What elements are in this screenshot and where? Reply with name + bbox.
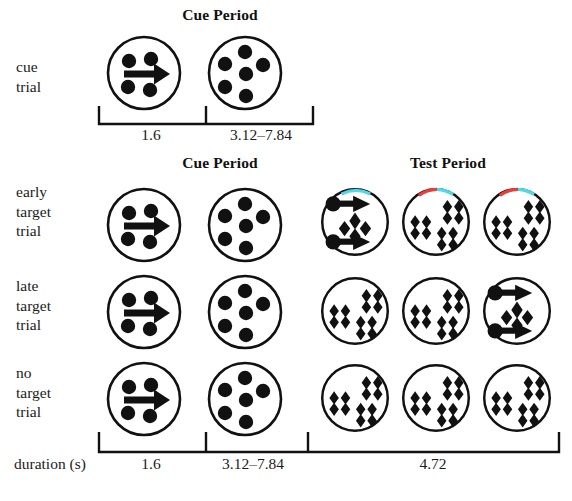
top-duration-segment-2: 3.12–7.84	[206, 126, 316, 144]
stimulus-no-target-cue	[104, 359, 184, 439]
stimulus-late-target-test-2	[398, 272, 474, 348]
header-test-period: Test Period	[368, 154, 528, 172]
row-label-early-target-trial: early target trial	[16, 182, 51, 241]
stimulus-early-target-test-2	[398, 183, 474, 259]
stimulus-late-target-test-3	[479, 272, 555, 348]
row-label-line: trial	[16, 77, 41, 97]
row-label-line: trial	[16, 402, 51, 422]
stimulus-no-target-test-2	[398, 359, 474, 435]
stimulus-late-target-cue	[104, 272, 184, 352]
stimulus-no-target-delay	[205, 359, 285, 439]
stimulus-cue-trial-cue	[104, 33, 184, 113]
stimulus-no-target-test-1	[317, 359, 393, 435]
bottom-duration-segment-2: 3.12–7.84	[198, 455, 308, 473]
row-label-line: early	[16, 182, 51, 202]
stimulus-no-target-test-3	[479, 359, 555, 435]
top-duration-segment-1: 1.6	[96, 126, 206, 144]
row-label-line: no	[16, 363, 51, 383]
row-label-line: target	[16, 202, 51, 222]
row-label-line: trial	[16, 221, 51, 241]
stimulus-late-target-test-1	[317, 272, 393, 348]
bottom-timeline-bracket	[96, 430, 562, 456]
row-label-no-target-trial: no target trial	[16, 363, 51, 422]
header-cue-period-mid: Cue Period	[140, 154, 300, 172]
bottom-duration-segment-3: 4.72	[308, 455, 558, 473]
row-label-line: target	[16, 383, 51, 403]
bottom-duration-segment-1: 1.6	[96, 455, 206, 473]
header-cue-period-top: Cue Period	[140, 6, 300, 24]
stimulus-cue-trial-delay	[205, 33, 285, 113]
stimulus-early-target-test-1	[317, 183, 393, 259]
row-label-line: trial	[16, 315, 51, 335]
row-label-line: cue	[16, 57, 41, 77]
stimulus-early-target-test-3	[479, 183, 555, 259]
row-label-cue-trial: cue trial	[16, 57, 41, 96]
trial-structure-figure: Cue Period cue trial 1.6 3.12–7.84 Cue P…	[0, 0, 572, 501]
row-label-line: target	[16, 296, 51, 316]
row-label-late-target-trial: late target trial	[16, 276, 51, 335]
stimulus-early-target-cue	[104, 185, 184, 265]
stimulus-early-target-delay	[205, 185, 285, 265]
duration-axis-label: duration (s)	[14, 455, 86, 473]
top-timeline-bracket	[96, 104, 316, 128]
stimulus-late-target-delay	[205, 272, 285, 352]
row-label-line: late	[16, 276, 51, 296]
